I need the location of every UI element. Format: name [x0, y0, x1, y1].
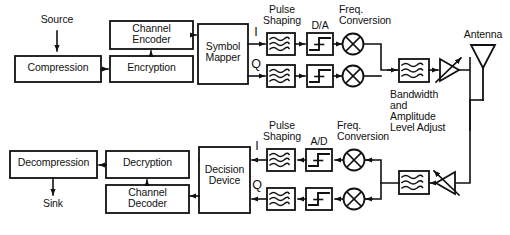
low-noise-amplifier-icon [434, 171, 459, 195]
tx-output-bandpass-filter [399, 59, 429, 82]
label-source: Source [27, 14, 87, 25]
label-compression: Compression [15, 62, 101, 73]
label-sink: Sink [26, 198, 80, 209]
label-channel-decoder: Channel Decoder [106, 187, 189, 209]
label-tx-freq-conversion: Freq. Conversion [339, 4, 411, 26]
label-symbol-mapper: Symbol Mapper [198, 41, 248, 63]
label-rx-q-branch: Q [250, 179, 264, 192]
label-decompression: Decompression [10, 157, 97, 168]
label-tx-q-branch: Q [249, 58, 263, 71]
wire-rx-bpf-to-q-mixer [366, 183, 381, 199]
rx-input-bandpass-filter [399, 171, 429, 194]
label-antenna: Antenna [456, 29, 510, 40]
label-channel-encoder: Channel Encoder [110, 23, 193, 45]
label-da-converter: D/A [305, 20, 335, 31]
label-ad-converter: A/D [304, 136, 334, 147]
label-rx-i-branch: I [250, 140, 264, 153]
label-tx-pulse-shaping: Pulse Shaping [251, 4, 313, 26]
label-decision-device: Decision Device [199, 164, 250, 186]
variable-gain-amplifier-icon [436, 58, 461, 82]
antenna-icon [471, 45, 495, 100]
label-encryption: Encryption [110, 62, 193, 73]
label-tx-i-branch: I [249, 26, 263, 39]
wire-tx-i-mixer-to-combiner [364, 44, 398, 70]
label-rx-freq-conversion: Freq. Conversion [337, 120, 409, 142]
label-decryption: Decryption [106, 157, 189, 168]
block-diagram-canvas: Source Compression Encryption Channel En… [0, 0, 510, 235]
wire-rx-bpf-to-i-mixer [366, 160, 399, 183]
